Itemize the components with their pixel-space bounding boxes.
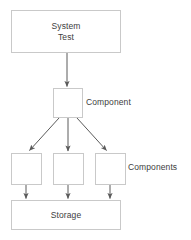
- components-annotation-label: Components: [128, 162, 177, 173]
- edge-component-to-comp-3: [77, 118, 107, 151]
- node-component: [53, 88, 83, 118]
- node-component-instance-1: [11, 153, 42, 185]
- node-storage-label: Storage: [51, 210, 81, 221]
- diagram-canvas: System Test Storage Component Components: [0, 0, 191, 240]
- node-storage: Storage: [11, 200, 121, 230]
- node-system-test: System Test: [11, 10, 121, 53]
- edge-component-to-comp-1: [30, 118, 60, 151]
- node-system-test-label: System Test: [52, 21, 81, 42]
- node-component-instance-3: [95, 153, 126, 185]
- component-annotation-label: Component: [86, 97, 131, 108]
- node-component-instance-2: [53, 153, 84, 185]
